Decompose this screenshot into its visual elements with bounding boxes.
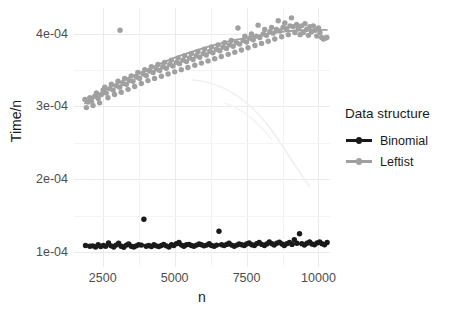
data-point bbox=[172, 69, 177, 74]
data-point bbox=[235, 25, 240, 30]
y-axis-tick-label: 1e-04 bbox=[36, 245, 68, 259]
data-point bbox=[112, 92, 117, 97]
data-point bbox=[239, 47, 244, 52]
data-point bbox=[145, 78, 150, 83]
x-axis-tick-labels: 25005000750010000 bbox=[74, 271, 330, 289]
data-point bbox=[185, 65, 190, 70]
legend-item-leftist[interactable]: Leftist bbox=[345, 151, 430, 172]
data-point bbox=[262, 27, 267, 32]
data-point bbox=[144, 73, 149, 78]
data-point bbox=[216, 229, 221, 234]
data-point bbox=[105, 95, 110, 100]
data-point bbox=[90, 103, 95, 108]
y-axis-tick-label: 4e-04 bbox=[36, 27, 68, 41]
legend-item-label: Leftist bbox=[380, 155, 413, 169]
data-point bbox=[152, 76, 157, 81]
legend-title: Data structure bbox=[345, 106, 430, 121]
data-point bbox=[141, 217, 146, 222]
data-point bbox=[159, 74, 164, 79]
data-point bbox=[117, 28, 122, 33]
data-point bbox=[139, 81, 144, 86]
legend-key-icon bbox=[345, 153, 373, 171]
data-point bbox=[282, 20, 287, 25]
data-point bbox=[137, 76, 142, 81]
y-axis-tick-label: 2e-04 bbox=[36, 172, 68, 186]
series-leftist bbox=[82, 15, 329, 110]
data-point bbox=[297, 231, 302, 236]
data-point bbox=[219, 54, 224, 59]
data-point bbox=[245, 45, 250, 50]
legend: Data structure BinomialLeftist bbox=[345, 106, 430, 172]
data-point bbox=[286, 32, 291, 37]
data-point bbox=[289, 15, 294, 20]
data-point bbox=[252, 43, 257, 48]
data-point bbox=[132, 84, 137, 89]
data-point bbox=[259, 41, 264, 46]
data-point bbox=[118, 90, 123, 95]
y-axis-tick-label: 3e-04 bbox=[36, 99, 68, 113]
data-point bbox=[165, 71, 170, 76]
plot-panel bbox=[74, 8, 330, 267]
data-point bbox=[225, 52, 230, 57]
data-series-layer bbox=[74, 8, 330, 267]
data-point bbox=[97, 100, 102, 105]
data-point bbox=[199, 60, 204, 65]
data-point bbox=[279, 34, 284, 39]
data-point bbox=[192, 63, 197, 68]
x-axis-title: n bbox=[74, 289, 330, 305]
x-axis-tick-label: 2500 bbox=[89, 271, 117, 285]
data-point bbox=[265, 39, 270, 44]
y-axis-title: Time/n bbox=[8, 61, 24, 181]
legend-item-label: Binomial bbox=[380, 134, 428, 148]
data-point bbox=[269, 25, 274, 30]
x-axis-tick-label: 7500 bbox=[233, 271, 261, 285]
data-point bbox=[205, 58, 210, 63]
x-axis-tick-label: 10000 bbox=[301, 271, 336, 285]
series-binomial bbox=[83, 217, 330, 250]
x-axis-tick-label: 5000 bbox=[161, 271, 189, 285]
legend-key-icon bbox=[345, 132, 373, 150]
data-point bbox=[302, 21, 307, 26]
chart-page: 1e-042e-043e-044e-04 Time/n 250050007500… bbox=[0, 0, 458, 317]
data-point bbox=[255, 22, 260, 27]
data-point bbox=[276, 18, 281, 23]
data-point bbox=[212, 56, 217, 61]
legend-item-binomial[interactable]: Binomial bbox=[345, 130, 430, 151]
data-point bbox=[324, 35, 329, 40]
data-point bbox=[232, 49, 237, 54]
data-point bbox=[130, 79, 135, 84]
legend-items: BinomialLeftist bbox=[345, 130, 430, 172]
data-point bbox=[84, 105, 89, 110]
data-point bbox=[272, 36, 277, 41]
data-point bbox=[179, 67, 184, 72]
data-point bbox=[125, 87, 130, 92]
